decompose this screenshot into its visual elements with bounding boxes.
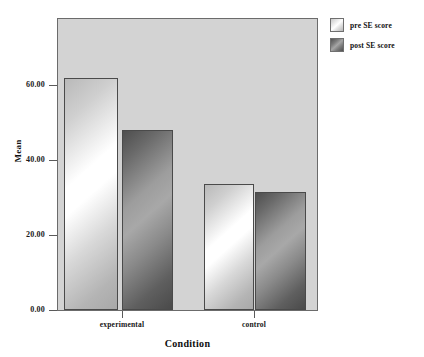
bar-control-post [255, 192, 306, 310]
bar-chart: 60.00 40.00 20.00 0.00 Mean experimental… [0, 0, 424, 357]
bar-control-pre [204, 184, 254, 310]
x-tick-mark-experimental [122, 311, 123, 318]
y-tick-label-20: 20.00 [26, 230, 45, 239]
x-axis-title: Condition [0, 338, 375, 349]
legend-item-post[interactable]: post SE score [330, 38, 422, 52]
legend-item-pre[interactable]: pre SE score [330, 18, 422, 32]
y-tick-mark-40 [49, 160, 57, 161]
legend-swatch-pre-icon [330, 18, 344, 32]
legend-label-pre: pre SE score [350, 21, 392, 30]
y-tick-label-40: 40.00 [26, 155, 45, 164]
bar-experimental-pre [64, 78, 118, 310]
y-tick-label-60: 60.00 [26, 80, 45, 89]
y-tick-label-0: 0.00 [30, 305, 45, 314]
legend: pre SE score post SE score [330, 18, 422, 58]
x-tick-label-control: control [214, 320, 294, 329]
x-tick-label-experimental: experimental [82, 320, 162, 329]
legend-swatch-post-icon [330, 38, 344, 52]
y-axis-title: Mean [13, 139, 23, 162]
y-tick-mark-20 [49, 235, 57, 236]
y-tick-mark-0 [49, 310, 57, 311]
y-tick-mark-60 [49, 85, 57, 86]
plot-area [57, 18, 318, 311]
legend-label-post: post SE score [350, 41, 395, 50]
bar-experimental-post [122, 130, 173, 310]
x-tick-mark-control [254, 311, 255, 318]
